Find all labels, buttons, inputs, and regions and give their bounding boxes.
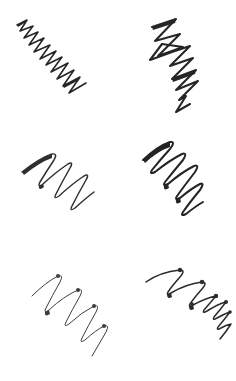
nib-dot — [92, 304, 96, 308]
handwriting-sample-sheet — [0, 0, 236, 381]
nib-dot — [190, 302, 194, 306]
nib-dot — [224, 300, 228, 304]
nib-dot — [56, 274, 60, 278]
nib-dot — [178, 268, 182, 272]
nib-dot — [214, 294, 218, 298]
nib-dot — [228, 310, 232, 314]
stroke-canvas — [0, 0, 236, 381]
nib-dot — [102, 324, 106, 328]
nib-dot — [200, 280, 204, 284]
nib-dot — [76, 288, 80, 292]
